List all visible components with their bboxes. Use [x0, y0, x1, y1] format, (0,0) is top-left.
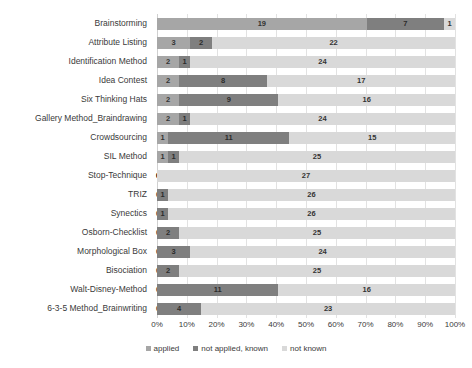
bar-segment: 1	[179, 113, 190, 125]
bar-segment: 25	[179, 151, 455, 163]
y-axis-label: Synectics	[111, 204, 147, 223]
bar-value-label: 1	[160, 210, 164, 218]
chart-legend: appliednot applied, knownnot known	[0, 344, 472, 353]
bar-value-label: 2	[166, 229, 170, 237]
bar-value-label: 1	[160, 191, 164, 199]
bar-value-label: 15	[368, 134, 376, 142]
legend-label: applied	[154, 344, 180, 353]
bar-row: 1125	[157, 151, 455, 163]
bar-value-label: 1	[160, 153, 164, 161]
bar-segment: 26	[168, 189, 455, 201]
bar-value-label: 3	[171, 248, 175, 256]
bar-value-label: 25	[313, 229, 321, 237]
bar-value-label: 2	[166, 58, 170, 66]
bar-value-label: 2	[166, 115, 170, 123]
y-axis-label: Brainstorming	[95, 14, 147, 33]
bar-segment: 1	[157, 132, 168, 144]
plot-area: 1971322221242817291621241111511250027012…	[157, 14, 455, 318]
bar-value-label: 2	[166, 267, 170, 275]
x-axis-tick-label: 40%	[268, 320, 284, 329]
bar-segment: 24	[190, 56, 455, 68]
y-axis-label: Crowdsourcing	[90, 128, 147, 147]
bar-segment: 16	[278, 94, 455, 106]
x-axis-tick-label: 10%	[179, 320, 195, 329]
x-axis-tick-label: 50%	[298, 320, 314, 329]
bar-segment: 1	[168, 151, 179, 163]
bar-segment: 4	[157, 303, 201, 315]
y-axis-label: Idea Contest	[99, 71, 147, 90]
y-axis-label: Attribute Listing	[88, 33, 147, 52]
bar-value-label: 27	[302, 172, 310, 180]
y-axis-label: Identification Method	[69, 52, 147, 71]
x-axis-tick-label: 80%	[387, 320, 403, 329]
bar-value-label: 25	[313, 153, 321, 161]
bar-value-label: 11	[225, 134, 233, 142]
bar-value-label: 11	[214, 286, 222, 294]
y-axis-label: Bisociation	[106, 261, 147, 280]
bar-value-label: 19	[258, 20, 266, 28]
y-axis-label: Gallery Method_Braindrawing	[35, 109, 147, 128]
bar-value-label: 24	[318, 58, 326, 66]
bar-value-label: 16	[363, 96, 371, 104]
bar-segment: 2	[157, 94, 179, 106]
bar-value-label: 16	[363, 286, 371, 294]
bar-segment: 9	[179, 94, 278, 106]
bar-value-label: 26	[307, 210, 315, 218]
legend-item[interactable]: not known	[282, 344, 326, 353]
x-axis-tick-label: 70%	[358, 320, 374, 329]
y-axis-label: Six Thinking Hats	[81, 90, 147, 109]
bar-segment: 2	[157, 75, 179, 87]
bar-row: 0324	[157, 246, 455, 258]
y-axis-label: Stop-Technique	[88, 166, 147, 185]
bar-value-label: 8	[221, 77, 225, 85]
bar-segment: 2	[157, 265, 179, 277]
bar-value-label: 3	[171, 39, 175, 47]
bar-value-label: 23	[324, 305, 332, 313]
bar-segment: 24	[190, 246, 455, 258]
bar-segment: 8	[179, 75, 267, 87]
bar-value-label: 2	[199, 39, 203, 47]
bar-row: 0126	[157, 208, 455, 220]
bar-segment: 11	[168, 132, 289, 144]
bar-value-label: 1	[182, 58, 186, 66]
bar-segment: 2	[190, 37, 212, 49]
x-axis-tick-label: 30%	[238, 320, 254, 329]
bar-segment: 2	[157, 113, 179, 125]
bar-value-label: 26	[307, 191, 315, 199]
x-axis-tick-label: 90%	[417, 320, 433, 329]
bar-segment: 25	[179, 227, 455, 239]
y-axis-label: Walt-Disney-Method	[70, 280, 147, 299]
bar-segment: 17	[267, 75, 455, 87]
bar-row: 3222	[157, 37, 455, 49]
bar-segment: 1	[157, 189, 168, 201]
x-axis-tick-label: 60%	[328, 320, 344, 329]
gridline-100	[455, 14, 456, 318]
bar-value-label: 24	[318, 248, 326, 256]
bar-segment: 15	[289, 132, 455, 144]
bar-value-label: 17	[357, 77, 365, 85]
bar-row: 2916	[157, 94, 455, 106]
bar-segment: 2	[157, 227, 179, 239]
bar-segment: 7	[367, 18, 444, 30]
bar-value-label: 7	[403, 20, 407, 28]
bar-value-label: 1	[447, 20, 451, 28]
legend-swatch-icon	[282, 346, 287, 351]
bar-value-label: 24	[318, 115, 326, 123]
bar-row: 2124	[157, 56, 455, 68]
bar-row: 0225	[157, 265, 455, 277]
bar-segment: 2	[157, 56, 179, 68]
bar-row: 01116	[157, 284, 455, 296]
bar-segment: 19	[157, 18, 367, 30]
bar-segment: 16	[278, 284, 455, 296]
bar-row: 0423	[157, 303, 455, 315]
bar-segment: 23	[201, 303, 455, 315]
legend-swatch-icon	[146, 346, 151, 351]
legend-item[interactable]: not applied, known	[193, 344, 268, 353]
bar-row: 1971	[157, 18, 455, 30]
x-axis-tick-labels: 0%10%20%30%40%50%60%70%80%90%100%	[157, 320, 455, 334]
y-axis-label: SIL Method	[104, 147, 147, 166]
bar-segment: 24	[190, 113, 455, 125]
bar-value-label: 1	[182, 115, 186, 123]
legend-label: not known	[290, 344, 326, 353]
legend-item[interactable]: applied	[146, 344, 180, 353]
